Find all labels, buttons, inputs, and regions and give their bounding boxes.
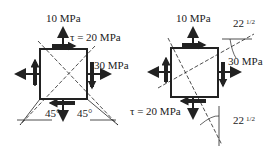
stress-element-diagrams: 10 MPa τ = 20 MPa 30 MPa 45° 45° 10 MPa …: [0, 0, 273, 160]
right-label-30mpa: 30 MPa: [228, 55, 263, 67]
right-label-shear: τ = 20 MPa: [130, 105, 181, 117]
left-stress-element: 10 MPa τ = 20 MPa 30 MPa 45° 45°: [16, 12, 129, 125]
left-label-angle-left: 45°: [45, 107, 60, 119]
left-label-shear: τ = 20 MPa: [70, 31, 121, 43]
right-stress-element: 10 MPa 30 MPa τ = 20 MPa 22 1/2 22 1/2: [130, 12, 263, 146]
left-element-square: [40, 49, 87, 99]
right-label-angle-bottom: 22: [233, 114, 244, 126]
right-label-10mpa: 10 MPa: [176, 12, 211, 24]
right-element-square: [171, 48, 218, 97]
left-label-30mpa: 30 MPa: [94, 59, 129, 71]
right-label-angle-top-frac: 1/2: [246, 18, 255, 26]
right-label-angle-bottom-frac: 1/2: [246, 115, 255, 123]
left-label-angle-right: 45°: [77, 107, 92, 119]
left-label-10mpa: 10 MPa: [46, 12, 81, 24]
right-inclined-line-1: [168, 38, 222, 145]
right-label-angle-top: 22: [233, 17, 244, 29]
